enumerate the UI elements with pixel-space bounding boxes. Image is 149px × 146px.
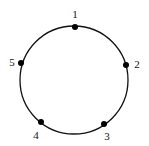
point-label-4: 4 <box>33 129 39 141</box>
circle-diagram: 12345 <box>0 0 149 146</box>
point-label-3: 3 <box>104 130 110 142</box>
point-5 <box>18 60 24 66</box>
point-2 <box>123 62 129 68</box>
point-label-5: 5 <box>9 56 15 68</box>
point-1 <box>72 24 78 30</box>
point-4 <box>38 119 44 125</box>
point-3 <box>101 121 107 127</box>
point-label-1: 1 <box>72 8 78 20</box>
main-circle <box>20 26 128 134</box>
point-label-2: 2 <box>134 58 140 70</box>
